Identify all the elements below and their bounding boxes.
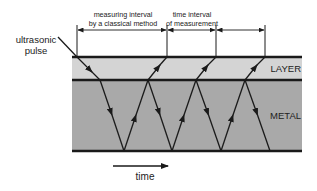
metal-region: [72, 80, 302, 151]
layer-label: LAYER: [271, 63, 302, 74]
measurement-interval-label-line1: time interval: [173, 10, 212, 19]
ultrasonic-pulse-label-line2: pulse: [25, 45, 48, 56]
classical-interval-label-line1: measuring interval: [94, 10, 153, 19]
ultrasonic-reflection-diagram: ultrasonic pulse measuring interval by a…: [0, 0, 317, 191]
layer-region: [72, 57, 302, 80]
time-label: time: [136, 171, 155, 182]
incoming-pulse-arrow: [58, 37, 77, 57]
classical-interval-label-line2: by a classical method: [89, 19, 158, 28]
measurement-interval-label-line2: of measurement: [166, 19, 218, 28]
ultrasonic-pulse-label-line1: ultrasonic: [16, 34, 57, 45]
metal-label: METAL: [270, 110, 301, 121]
